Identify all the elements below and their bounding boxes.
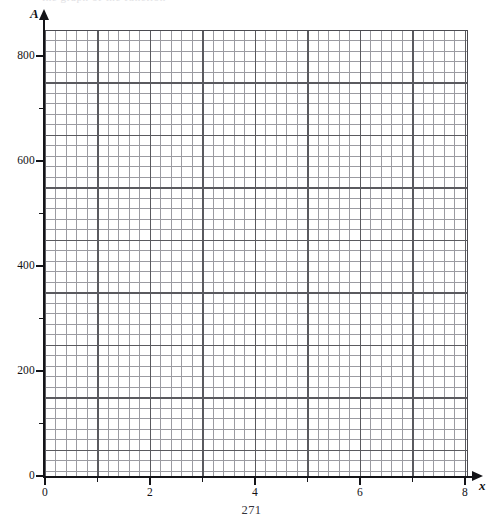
x-tick-label: 2 [147, 486, 153, 498]
y-tick-minor [39, 318, 45, 320]
y-tick-major [36, 370, 45, 372]
x-tick-label: 8 [462, 486, 468, 498]
y-tick-minor [39, 423, 45, 425]
y-tick-label: 600 [17, 154, 35, 166]
y-tick-major [36, 265, 45, 267]
y-tick-label: 400 [17, 259, 35, 271]
x-tick-minor [202, 476, 204, 482]
grid-right-border [467, 30, 468, 477]
x-tick-label: 4 [252, 486, 258, 498]
y-tick-label: 800 [17, 49, 35, 61]
x-tick-minor [412, 476, 414, 482]
x-tick-major [359, 476, 361, 485]
y-axis-label: A [30, 6, 39, 22]
grid-top-border [45, 30, 468, 31]
grid-background [45, 30, 468, 477]
x-tick-minor [97, 476, 99, 482]
page-number: 271 [0, 503, 503, 518]
y-tick-major [36, 160, 45, 162]
x-tick-major [254, 476, 256, 485]
y-tick-minor [39, 213, 45, 215]
y-tick-major [36, 55, 45, 57]
x-tick-major [44, 476, 46, 485]
x-tick-label: 6 [357, 486, 363, 498]
x-tick-major [149, 476, 151, 485]
y-tick-label: 0 [29, 469, 35, 481]
y-axis-arrow-icon [39, 9, 49, 20]
graph-plot-area: A x 800600400200002468 [0, 0, 503, 505]
y-tick-label: 200 [17, 364, 35, 376]
y-tick-minor [39, 108, 45, 110]
x-tick-minor [307, 476, 309, 482]
x-tick-major [464, 476, 466, 485]
x-axis-line [43, 476, 475, 478]
x-tick-label: 0 [42, 486, 48, 498]
x-axis-label: x [479, 478, 486, 494]
y-axis-line [43, 18, 45, 477]
